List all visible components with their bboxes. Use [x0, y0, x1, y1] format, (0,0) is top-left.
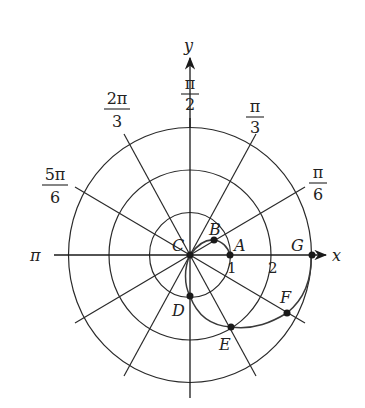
label-D: D	[171, 301, 185, 320]
point-F	[284, 310, 291, 317]
point-A	[227, 252, 234, 259]
svg-text:π: π	[185, 74, 196, 93]
curve-spiral	[186, 255, 312, 328]
y-axis-label: y	[183, 36, 194, 55]
curve-inner-loop	[190, 240, 230, 255]
svg-text:π: π	[250, 97, 261, 116]
svg-text:5π: 5π	[45, 165, 66, 184]
label-E: E	[218, 335, 231, 354]
label-C: C	[172, 236, 184, 255]
polar-graph-svg: B A C D E F G 1 2 x y π π 2 π 3 π 6 2π 3…	[0, 0, 365, 408]
pi-label: π	[29, 246, 41, 265]
x-axis-label: x	[332, 246, 341, 265]
tick-2: 2	[268, 259, 278, 277]
point-E	[228, 324, 235, 331]
point-D	[187, 293, 194, 300]
point-G	[309, 252, 316, 259]
angle-label-5pi-6: 5π 6	[42, 165, 68, 207]
point-C	[187, 252, 194, 259]
svg-text:2π: 2π	[107, 89, 128, 108]
label-A: A	[232, 236, 246, 255]
svg-text:3: 3	[112, 112, 122, 131]
svg-text:6: 6	[313, 185, 323, 204]
angle-label-pi-6: π 6	[309, 163, 327, 204]
polar-diagram: B A C D E F G 1 2 x y π π 2 π 3 π 6 2π 3…	[0, 0, 365, 408]
label-B: B	[208, 220, 221, 239]
angle-label-2pi-3: 2π 3	[104, 89, 130, 131]
svg-text:2: 2	[185, 95, 195, 114]
label-G: G	[291, 236, 304, 255]
svg-text:6: 6	[50, 188, 60, 207]
angle-label-pi-2: π 2	[181, 74, 199, 114]
label-F: F	[279, 288, 292, 307]
angle-label-pi-3: π 3	[246, 97, 264, 137]
tick-1: 1	[227, 259, 237, 277]
svg-text:π: π	[313, 163, 324, 182]
svg-text:3: 3	[250, 118, 260, 137]
